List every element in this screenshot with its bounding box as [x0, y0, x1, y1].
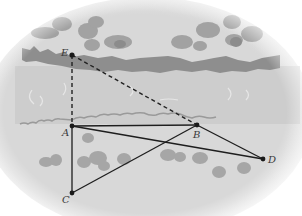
- label-B: B: [192, 129, 200, 140]
- point-E: [69, 52, 74, 57]
- vignette-fade: [0, 0, 302, 216]
- point-C: [70, 191, 75, 196]
- point-B: [195, 123, 200, 128]
- point-D: [261, 157, 266, 162]
- label-A: A: [61, 127, 69, 138]
- label-E: E: [60, 47, 69, 58]
- river-width-diagram: E A B D C: [0, 0, 302, 216]
- label-C: C: [62, 194, 70, 205]
- point-A: [70, 124, 75, 129]
- diagram-canvas: E A B D C: [0, 0, 302, 216]
- label-D: D: [267, 154, 276, 165]
